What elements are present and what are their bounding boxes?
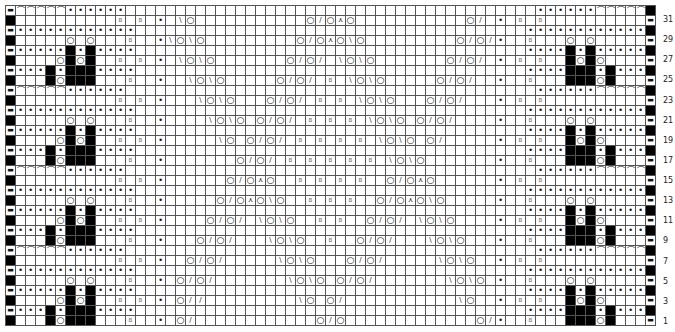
knit-cell xyxy=(636,236,646,246)
yarn-over-icon: ○ xyxy=(226,176,236,186)
knit-cell xyxy=(126,6,136,16)
knit-cell xyxy=(266,306,276,316)
twisted-stitch-icon: B xyxy=(116,96,126,106)
knit-cell xyxy=(426,56,436,66)
knit-cell xyxy=(406,56,416,66)
knit-cell xyxy=(366,16,376,26)
knit-cell xyxy=(426,156,436,166)
arc-icon: ⌒ xyxy=(606,6,616,16)
edge-purl-icon: ▬ xyxy=(6,26,16,36)
knit-cell xyxy=(616,56,626,66)
purl-dot-icon: • xyxy=(616,226,626,236)
knit-cell xyxy=(376,176,386,186)
row-label-1: 1 xyxy=(663,317,668,327)
purl-dot-icon: • xyxy=(96,46,106,56)
purl-dot-icon: • xyxy=(106,86,116,96)
arc-icon: ⌒ xyxy=(46,246,56,256)
knit-cell xyxy=(186,306,196,316)
knit-cell xyxy=(266,106,276,116)
knit-cell xyxy=(346,176,356,186)
k2tog-icon: / xyxy=(316,16,326,26)
knit-cell xyxy=(346,96,356,106)
purl-dot-icon: • xyxy=(96,206,106,216)
knit-cell xyxy=(516,316,526,326)
knit-cell xyxy=(176,46,186,56)
knit-cell xyxy=(226,6,236,16)
no-stitch-cell xyxy=(46,236,56,246)
twisted-stitch-icon: B xyxy=(516,176,526,186)
knit-cell xyxy=(626,236,636,246)
knit-cell xyxy=(486,246,496,256)
knit-cell xyxy=(546,236,556,246)
knit-cell xyxy=(126,256,136,266)
knit-cell xyxy=(466,156,476,166)
knit-cell xyxy=(246,76,256,86)
yarn-over-icon: ○ xyxy=(266,216,276,226)
knit-cell xyxy=(376,26,386,36)
knit-cell xyxy=(496,186,506,196)
knit-cell xyxy=(206,86,216,96)
knit-cell xyxy=(336,66,346,76)
knit-cell xyxy=(636,256,646,266)
knit-cell xyxy=(166,226,176,236)
knit-cell xyxy=(176,166,186,176)
knit-cell xyxy=(406,276,416,286)
knit-cell xyxy=(576,96,586,106)
knit-cell xyxy=(426,166,436,176)
knit-cell xyxy=(416,296,426,306)
knit-cell xyxy=(216,146,226,156)
knit-cell xyxy=(526,96,536,106)
knit-cell xyxy=(176,116,186,126)
knit-cell xyxy=(166,236,176,246)
knit-cell xyxy=(216,266,226,276)
twisted-stitch-icon: B xyxy=(126,236,136,246)
knit-cell xyxy=(426,226,436,236)
knit-cell xyxy=(326,56,336,66)
knit-cell xyxy=(556,256,566,266)
knit-cell xyxy=(336,196,346,206)
no-stitch-cell xyxy=(86,206,96,216)
no-stitch-cell xyxy=(646,166,656,176)
knit-cell xyxy=(536,156,546,166)
knit-cell xyxy=(436,26,446,36)
yarn-over-icon: ○ xyxy=(376,116,386,126)
purl-dot-icon: • xyxy=(576,46,586,56)
no-stitch-cell xyxy=(6,156,16,166)
twisted-stitch-icon: B xyxy=(346,156,356,166)
knit-cell xyxy=(216,296,226,306)
no-stitch-cell xyxy=(6,296,16,306)
arc-icon: ⌒ xyxy=(596,86,606,96)
ssk-icon: \ xyxy=(456,256,466,266)
purl-dot-icon: • xyxy=(106,106,116,116)
k2tog-icon: / xyxy=(466,76,476,86)
knit-cell xyxy=(476,156,486,166)
knit-cell xyxy=(186,246,196,256)
knit-cell xyxy=(566,176,576,186)
knit-cell xyxy=(416,126,426,136)
knit-cell xyxy=(326,136,336,146)
knit-cell xyxy=(416,96,426,106)
twisted-stitch-icon: B xyxy=(336,216,346,226)
purl-dot-icon: • xyxy=(636,66,646,76)
knit-cell xyxy=(106,196,116,206)
knit-cell xyxy=(236,66,246,76)
knit-cell xyxy=(196,46,206,56)
knit-cell xyxy=(176,256,186,266)
arc-icon: ⌒ xyxy=(596,246,606,256)
knit-cell xyxy=(306,236,316,246)
knit-cell xyxy=(296,216,306,226)
knit-cell xyxy=(596,16,606,26)
purl-dot-icon: • xyxy=(576,166,586,176)
knit-cell xyxy=(326,266,336,276)
purl-dot-icon: • xyxy=(596,106,606,116)
purl-dot-icon: • xyxy=(86,186,96,196)
knit-cell xyxy=(616,116,626,126)
knit-cell xyxy=(266,226,276,236)
knit-cell xyxy=(276,226,286,236)
edge-purl-icon: ▬ xyxy=(6,86,16,96)
no-stitch-cell xyxy=(86,286,96,296)
knit-cell xyxy=(186,126,196,136)
knit-cell xyxy=(466,196,476,206)
knit-cell xyxy=(416,186,426,196)
knit-cell xyxy=(486,166,496,176)
